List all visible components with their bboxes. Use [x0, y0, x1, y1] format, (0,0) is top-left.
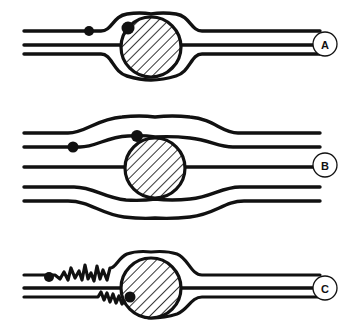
- panel-c-upstream-dot: [44, 272, 54, 282]
- panel-c-label-badge: C: [313, 276, 337, 300]
- figure-root: A B: [0, 0, 348, 333]
- panel-b-label-text: B: [321, 160, 329, 172]
- panel-a-label-text: A: [321, 39, 329, 51]
- schematic-diagram: A B: [0, 0, 348, 333]
- panel-b-upstream-dot: [68, 142, 79, 153]
- panel-a-label-badge: A: [313, 32, 337, 56]
- panel-a-contact-dot: [122, 22, 135, 35]
- panel-a-upstream-dot: [84, 26, 94, 36]
- panel-c-label-text: C: [321, 283, 329, 295]
- panel-b-contact-dot: [131, 130, 143, 142]
- panel-b-label-badge: B: [313, 153, 337, 177]
- panel-c-contact-dot: [125, 292, 136, 303]
